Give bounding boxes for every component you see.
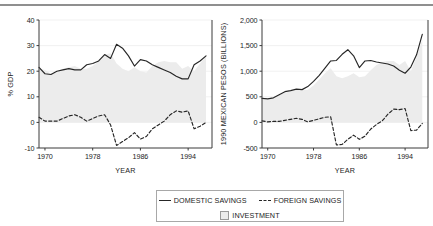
- x-tick-label: 1986: [133, 152, 149, 161]
- legend-label-investment: INVESTMENT: [232, 212, 279, 219]
- x-tick-label: 1994: [397, 152, 413, 161]
- y-tick-label: 2,000: [240, 16, 258, 25]
- plot-area-percent-gdp: -100102030401970197819861994YEAR% GDP: [6, 16, 212, 176]
- y-tick-label: 30: [27, 41, 35, 50]
- y-tick-label: 10: [27, 92, 35, 101]
- y-tick-label: 0: [254, 118, 258, 127]
- x-axis-title: YEAR: [115, 166, 135, 175]
- y-tick-label: 20: [27, 67, 35, 76]
- x-tick-label: 1994: [180, 152, 196, 161]
- plot-area-pesos: -50005001,0001,5002,0001970197819861994Y…: [219, 16, 428, 176]
- y-tick-label: 1,500: [240, 41, 258, 50]
- x-tick-label: 1970: [37, 152, 53, 161]
- y-tick-label: -500: [244, 144, 258, 153]
- dashed-line-icon: [259, 200, 271, 201]
- x-tick-label: 1970: [260, 152, 276, 161]
- solid-line-icon: [159, 200, 171, 201]
- y-axis-title: % GDP: [6, 72, 15, 97]
- x-tick-label: 1986: [352, 152, 368, 161]
- legend-row-lines: DOMESTIC SAVINGS FOREIGN SAVINGS: [157, 191, 343, 208]
- header-rule: [0, 4, 433, 6]
- legend-label-domestic-savings: DOMESTIC SAVINGS: [174, 197, 247, 204]
- area-investment: [262, 39, 422, 122]
- legend-item-investment[interactable]: INVESTMENT: [220, 211, 279, 220]
- chart-svg-percent-gdp: -100102030401970197819861994YEAR% GDP: [2, 8, 218, 190]
- y-tick-label: 40: [27, 16, 35, 25]
- y-axis-title: 1990 MEXICAN PESOS (BILLIONS): [219, 23, 228, 145]
- y-tick-label: 1,000: [240, 67, 258, 76]
- y-tick-label: 500: [246, 92, 258, 101]
- chart-panel-pesos: -50005001,0001,5002,0001970197819861994Y…: [216, 8, 432, 190]
- chart-svg-pesos: -50005001,0001,5002,0001970197819861994Y…: [216, 8, 432, 190]
- legend-label-foreign-savings: FOREIGN SAVINGS: [274, 197, 342, 204]
- y-tick-label: 0: [31, 118, 35, 127]
- x-tick-label: 1978: [85, 152, 101, 161]
- x-tick-label: 1978: [306, 152, 322, 161]
- chart-legend: DOMESTIC SAVINGS FOREIGN SAVINGS INVESTM…: [156, 190, 344, 222]
- chart-panel-percent-gdp: -100102030401970197819861994YEAR% GDP: [2, 8, 218, 190]
- legend-row-area: INVESTMENT: [157, 208, 343, 223]
- legend-item-foreign-savings[interactable]: FOREIGN SAVINGS: [259, 197, 342, 204]
- x-axis-title: YEAR: [335, 166, 355, 175]
- filled-square-icon: [220, 211, 229, 220]
- y-tick-label: -10: [24, 144, 34, 153]
- legend-item-domestic-savings[interactable]: DOMESTIC SAVINGS: [159, 197, 247, 204]
- figure-container: -100102030401970197819861994YEAR% GDP -5…: [0, 8, 433, 226]
